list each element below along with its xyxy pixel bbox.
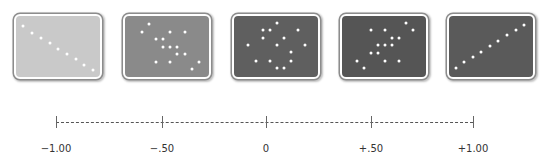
data-point — [290, 51, 293, 54]
data-point — [398, 37, 401, 40]
data-point — [384, 60, 387, 63]
data-point — [155, 38, 158, 41]
data-point — [472, 56, 475, 59]
data-point — [283, 37, 286, 40]
data-point — [489, 45, 492, 48]
data-point — [463, 61, 466, 64]
data-point — [176, 46, 179, 49]
data-point — [405, 22, 408, 25]
data-point — [184, 31, 187, 34]
tick-label-plus-1: +1.00 — [458, 143, 489, 154]
data-point — [523, 24, 526, 27]
data-point — [297, 29, 300, 32]
data-point — [480, 51, 483, 54]
data-point — [40, 37, 43, 40]
data-point — [49, 42, 52, 45]
data-point — [269, 29, 272, 32]
scatter-panel-r-minus-0.5 — [123, 14, 211, 79]
data-point — [384, 44, 387, 47]
data-point — [66, 53, 69, 56]
data-point — [191, 68, 194, 71]
data-point — [31, 32, 34, 35]
data-point — [370, 29, 373, 32]
data-point — [155, 61, 158, 64]
data-point — [391, 44, 394, 47]
data-point — [363, 67, 366, 70]
scatter-panel-r-zero — [232, 14, 320, 79]
data-point — [92, 69, 95, 72]
axis-tick — [371, 116, 372, 128]
data-point — [57, 48, 60, 51]
data-point — [497, 40, 500, 43]
data-point — [269, 60, 272, 63]
axis-tick — [473, 116, 474, 128]
data-point — [276, 67, 279, 70]
data-point — [262, 29, 265, 32]
data-point — [276, 44, 279, 47]
data-point — [391, 37, 394, 40]
scatter-panel-r-minus-1 — [14, 14, 102, 79]
data-point — [262, 37, 265, 40]
data-point — [356, 60, 359, 63]
data-point — [162, 38, 165, 41]
data-point — [398, 60, 401, 63]
data-point — [506, 34, 509, 37]
data-point — [455, 67, 458, 70]
data-point — [176, 53, 179, 56]
tick-label-plus-half: +.50 — [359, 143, 383, 154]
data-point — [255, 60, 258, 63]
axis-tick — [162, 116, 163, 128]
data-point — [141, 31, 144, 34]
data-point — [184, 53, 187, 56]
scatter-panel-r-plus-1 — [447, 14, 535, 79]
data-point — [515, 29, 518, 32]
data-point — [412, 29, 415, 32]
data-point — [370, 52, 373, 55]
data-point — [377, 44, 380, 47]
data-point — [75, 58, 78, 61]
tick-label-zero: 0 — [263, 143, 269, 154]
data-point — [162, 46, 165, 49]
data-point — [169, 31, 172, 34]
data-point — [169, 46, 172, 49]
data-point — [83, 64, 86, 67]
data-point — [169, 61, 172, 64]
data-point — [148, 23, 151, 26]
tick-label-minus-1: −1.00 — [41, 143, 72, 154]
data-point — [198, 61, 201, 64]
data-point — [22, 25, 25, 28]
scatter-panel-r-plus-0.5 — [340, 14, 428, 79]
correlation-axis-line — [56, 122, 473, 123]
data-point — [276, 22, 279, 25]
axis-tick — [266, 116, 267, 128]
data-point — [377, 52, 380, 55]
data-point — [247, 44, 250, 47]
axis-tick — [56, 116, 57, 128]
data-point — [304, 44, 307, 47]
tick-label-minus-half: −.50 — [150, 143, 174, 154]
data-point — [290, 60, 293, 63]
data-point — [283, 67, 286, 70]
data-point — [384, 29, 387, 32]
